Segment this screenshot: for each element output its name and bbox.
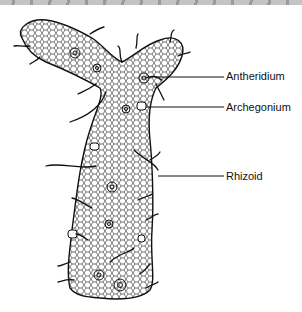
label-archegonium: Archegonium (226, 101, 291, 113)
thallus-body (21, 20, 183, 299)
label-antheridium: Antheridium (226, 70, 285, 82)
label-rhizoid: Rhizoid (226, 170, 263, 182)
thallus-diagram (0, 0, 302, 312)
leader-lines (146, 77, 224, 176)
